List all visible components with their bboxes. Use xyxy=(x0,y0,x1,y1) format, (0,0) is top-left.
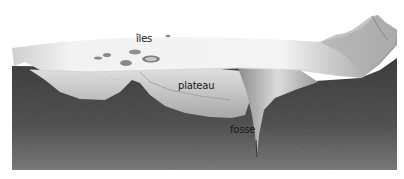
label-trench: fosse xyxy=(230,124,255,135)
continental-shelf xyxy=(12,15,397,78)
label-islands: îles xyxy=(136,33,152,44)
label-plateau: plateau xyxy=(178,80,214,91)
ocean-floor-diagram: îles plateau fosse xyxy=(0,0,404,179)
